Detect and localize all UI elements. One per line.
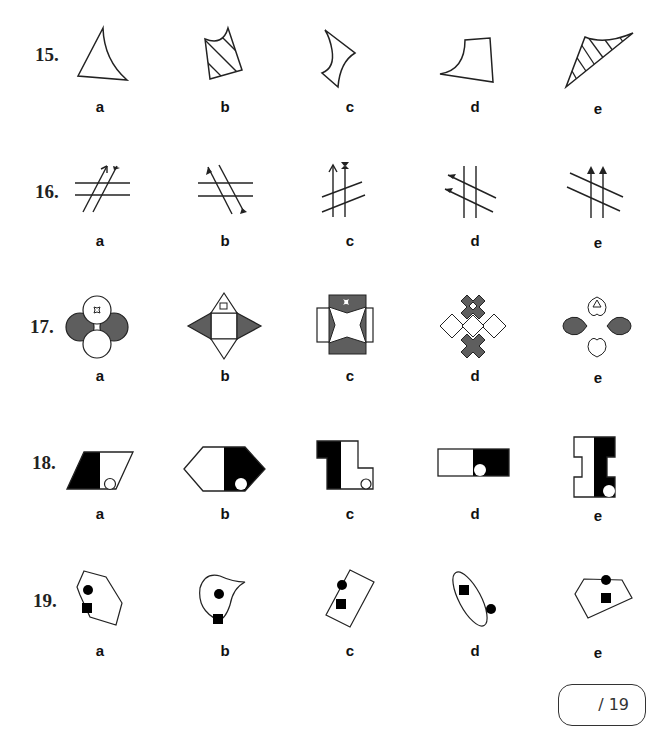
option-label-18d: d xyxy=(465,505,485,522)
figure-15e-hatched-triangle-icon[interactable] xyxy=(560,25,640,95)
option-label-16d: d xyxy=(465,232,485,249)
score-total: / 19 xyxy=(598,695,629,714)
figure-16a-lines-arrows-icon[interactable] xyxy=(70,160,140,225)
option-label-19c: c xyxy=(340,642,360,659)
question-number-17: 17. xyxy=(30,316,54,338)
figure-19c-rectangle-dot-square-icon[interactable] xyxy=(320,565,380,630)
figure-18d-rectangle-icon[interactable] xyxy=(435,440,515,490)
figure-15c-concave-shape-icon[interactable] xyxy=(320,20,380,90)
option-label-16c: c xyxy=(340,232,360,249)
option-label-18c: c xyxy=(340,505,360,522)
option-label-17d: d xyxy=(465,367,485,384)
figure-19d-ellipse-square-dot-icon[interactable] xyxy=(450,565,505,635)
figure-16e-lines-arrows-icon[interactable] xyxy=(565,160,630,225)
figure-17d-crosses-cluster-icon[interactable] xyxy=(435,290,515,365)
score-box[interactable]: / 19 xyxy=(558,684,646,726)
option-label-18b: b xyxy=(215,505,235,522)
question-number-16: 16. xyxy=(35,181,59,203)
option-label-16e: e xyxy=(588,234,608,251)
figure-16d-lines-arrows-icon[interactable] xyxy=(440,160,505,225)
option-label-17c: c xyxy=(340,367,360,384)
figure-15d-curved-quad-icon[interactable] xyxy=(435,30,505,90)
figure-19a-hexagon-dot-square-icon[interactable] xyxy=(70,565,130,625)
figure-18e-I-shape-icon[interactable] xyxy=(572,432,622,502)
figure-15b-hatched-shape-icon[interactable] xyxy=(195,20,255,90)
figure-17b-square-triangles-icon[interactable] xyxy=(185,290,265,365)
option-label-18e: e xyxy=(588,507,608,524)
option-label-15b: b xyxy=(215,98,235,115)
figure-19e-pentagon-dot-square-icon[interactable] xyxy=(570,570,635,630)
option-label-19e: e xyxy=(588,644,608,661)
figure-19b-teardrop-dot-square-icon[interactable] xyxy=(195,570,255,630)
option-label-19a: a xyxy=(90,642,110,659)
figure-18a-parallelogram-icon[interactable] xyxy=(65,440,140,490)
option-label-17e: e xyxy=(588,369,608,386)
option-label-15a: a xyxy=(90,98,110,115)
figure-17e-hearts-cluster-icon[interactable] xyxy=(560,290,640,365)
figure-18b-hexagon-icon[interactable] xyxy=(182,436,272,496)
option-label-17a: a xyxy=(90,367,110,384)
question-number-19: 19. xyxy=(33,590,57,612)
figure-18c-L-shape-icon[interactable] xyxy=(310,436,390,496)
figure-16c-lines-arrows-icon[interactable] xyxy=(320,155,380,225)
option-label-15c: c xyxy=(340,98,360,115)
option-label-19b: b xyxy=(215,642,235,659)
figure-17c-square-star-cutout-icon[interactable] xyxy=(310,290,385,365)
option-label-15d: d xyxy=(465,98,485,115)
question-number-18: 18. xyxy=(32,452,56,474)
option-label-15e: e xyxy=(588,100,608,117)
question-number-15: 15. xyxy=(35,44,59,66)
option-label-19d: d xyxy=(465,642,485,659)
figure-15a-curved-triangle-icon[interactable] xyxy=(70,20,140,90)
option-label-16a: a xyxy=(90,232,110,249)
figure-16b-lines-arrows-icon[interactable] xyxy=(195,160,265,225)
option-label-17b: b xyxy=(215,367,235,384)
option-label-18a: a xyxy=(90,505,110,522)
figure-17a-four-circles-icon[interactable] xyxy=(58,290,138,365)
option-label-16b: b xyxy=(215,232,235,249)
